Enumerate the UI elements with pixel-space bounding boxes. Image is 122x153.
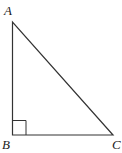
triangle-abc <box>13 22 114 135</box>
right-angle-marker <box>13 121 27 136</box>
vertex-label-a: A <box>3 3 12 18</box>
triangle-diagram: A B C <box>0 0 122 153</box>
vertex-label-b: B <box>2 137 10 152</box>
vertex-label-c: C <box>112 137 121 152</box>
